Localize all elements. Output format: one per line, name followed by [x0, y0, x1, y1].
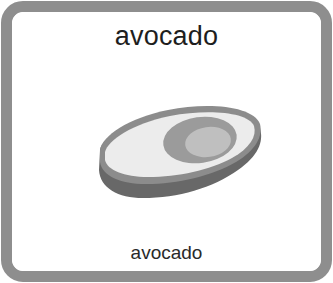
card-caption: avocado: [12, 241, 321, 265]
card-body: avocado avocado: [12, 12, 321, 271]
card-title: avocado: [12, 20, 321, 52]
avocado-icon: [88, 98, 268, 208]
picture-card[interactable]: avocado avocado: [1, 1, 332, 282]
